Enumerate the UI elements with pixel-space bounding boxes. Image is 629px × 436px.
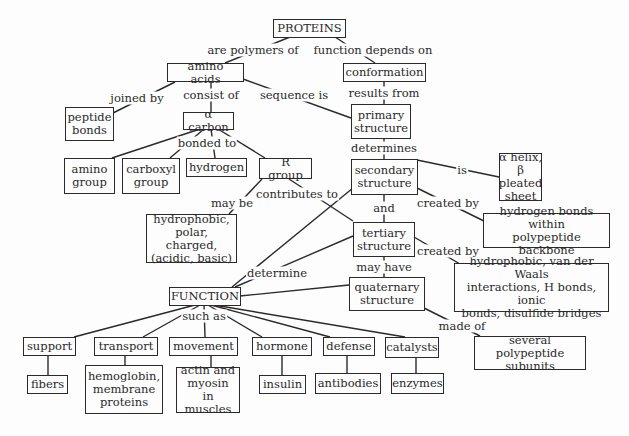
node-movement-examples: actin and myosin in muscles xyxy=(176,367,240,413)
label-created-by-tertiary: created by xyxy=(416,245,480,258)
node-r-group-types: hydrophobic, polar, charged, (acidic, ba… xyxy=(146,214,237,263)
node-carboxyl-group: carboxyl group xyxy=(122,158,180,194)
label-are-polymers-of: are polymers of xyxy=(206,44,299,57)
node-helix-sheet: α helix, β pleated sheet xyxy=(499,153,542,201)
node-subunits: several polypeptide subunits xyxy=(474,336,586,370)
node-quaternary-structure: quaternary structure xyxy=(349,277,425,311)
label-may-be: may be xyxy=(210,197,254,210)
node-catalysts: catalysts xyxy=(385,337,439,358)
node-secondary-structure: secondary structure xyxy=(351,159,418,195)
node-hydrogen: hydrogen xyxy=(186,158,247,177)
label-consist-of: consist of xyxy=(182,89,240,102)
node-fibers: fibers xyxy=(27,375,68,394)
node-defense: defense xyxy=(323,337,375,356)
label-determine: determine xyxy=(246,267,308,280)
label-bonded-to: bonded to xyxy=(177,137,237,150)
node-function: FUNCTION xyxy=(169,287,241,306)
node-r-group: R group xyxy=(259,158,312,179)
label-determines: determines xyxy=(350,142,418,155)
node-movement: movement xyxy=(169,337,238,356)
node-primary-structure: primary structure xyxy=(351,104,411,139)
node-alpha-carbon: α carbon xyxy=(183,112,234,130)
node-amino-acids: amino acids xyxy=(167,63,244,82)
label-joined-by: joined by xyxy=(109,92,164,105)
label-such-as: such as xyxy=(181,310,227,323)
label-sequence-is: sequence is xyxy=(259,89,329,102)
label-function-depends-on: function depends on xyxy=(313,44,434,57)
node-tertiary-structure: tertiary structure xyxy=(353,222,415,257)
label-may-have: may have xyxy=(355,261,412,274)
node-amino-group: amino group xyxy=(64,158,115,194)
node-hormone: hormone xyxy=(252,337,312,356)
node-peptide-bonds: peptide bonds xyxy=(65,107,114,141)
node-transport: transport xyxy=(94,337,158,356)
node-support: support xyxy=(23,337,76,356)
node-conformation: conformation xyxy=(343,63,426,82)
node-hydrogen-bonds: hydrogen bonds within polypeptide backbo… xyxy=(483,213,610,248)
node-hormone-examples: insulin xyxy=(259,375,306,394)
node-catalysts-examples: enzymes xyxy=(391,373,444,394)
label-created-by-secondary: created by xyxy=(416,197,480,210)
label-contributes-to: contributes to xyxy=(255,188,339,201)
label-results-from: results from xyxy=(347,87,420,100)
label-is: is xyxy=(456,164,468,177)
node-transport-examples: hemoglobin, membrane proteins xyxy=(85,365,163,414)
label-made-of: made of xyxy=(438,320,487,333)
label-and: and xyxy=(372,202,396,215)
node-proteins: PROTEINS xyxy=(273,19,346,38)
node-tertiary-bonds: hydrophobic, van der Waals interactions,… xyxy=(454,263,609,312)
node-defense-examples: antibodies xyxy=(315,373,381,394)
